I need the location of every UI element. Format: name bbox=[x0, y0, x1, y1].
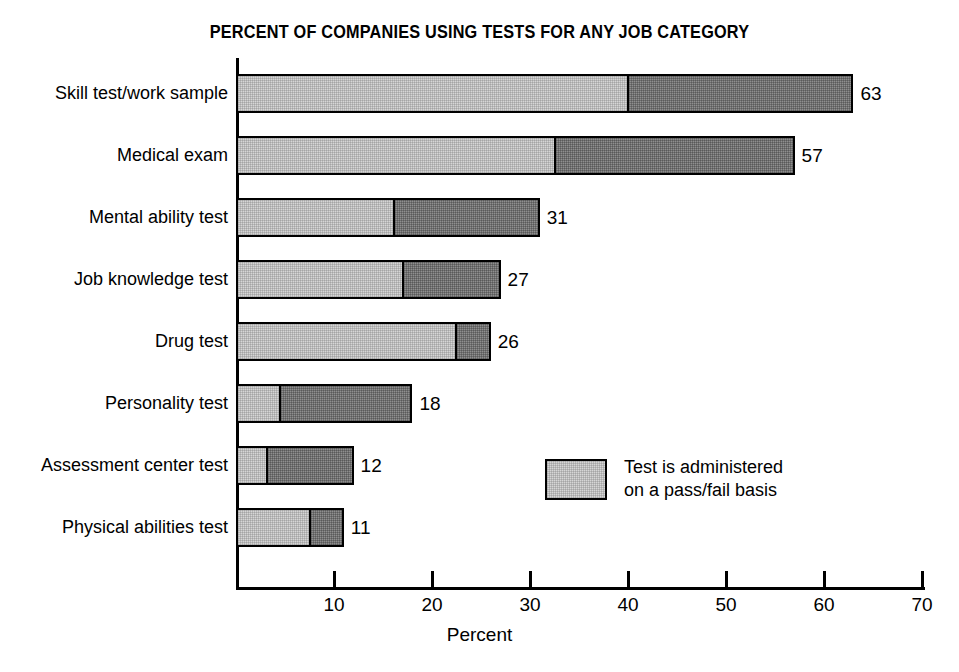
x-tick-mark bbox=[333, 571, 336, 588]
bar-segment-pass-fail bbox=[238, 262, 402, 297]
bar-value-label: 63 bbox=[853, 83, 881, 105]
x-tick-label: 20 bbox=[421, 594, 442, 616]
bar-segment-pass-fail bbox=[238, 76, 627, 111]
chart-title: PERCENT OF COMPANIES USING TESTS FOR ANY… bbox=[34, 22, 926, 43]
x-tick-mark bbox=[431, 571, 434, 588]
category-label-8: Physical abilities test bbox=[8, 517, 236, 538]
bar-value-label: 18 bbox=[412, 393, 440, 415]
category-label-3: Mental ability test bbox=[8, 207, 236, 228]
plot-area: 6357312726181211 bbox=[236, 58, 922, 588]
x-tick-mark bbox=[921, 571, 924, 588]
x-tick-mark bbox=[529, 571, 532, 588]
bar-segment-other bbox=[627, 76, 851, 111]
bar-segment-pass-fail bbox=[238, 386, 279, 421]
bar-value-label: 57 bbox=[795, 145, 823, 167]
legend-label-pass-fail: Test is administered on a pass/fail basi… bbox=[624, 456, 783, 502]
bar-segment-other bbox=[309, 510, 342, 545]
bar-8 bbox=[236, 508, 344, 547]
bar-segment-other bbox=[393, 200, 538, 235]
x-tick-label: 30 bbox=[519, 594, 540, 616]
bar-value-label: 12 bbox=[354, 455, 382, 477]
category-label-4: Job knowledge test bbox=[8, 269, 236, 290]
category-label-column: Skill test/work sampleMedical examMental… bbox=[0, 58, 236, 588]
chart-container: PERCENT OF COMPANIES USING TESTS FOR ANY… bbox=[0, 0, 959, 672]
bar-segment-pass-fail bbox=[238, 510, 309, 545]
bar-2 bbox=[236, 136, 795, 175]
x-axis-title: Percent bbox=[0, 624, 959, 646]
chart-legend: Test is administered on a pass/fail basi… bbox=[545, 456, 783, 502]
bar-segment-pass-fail bbox=[238, 200, 393, 235]
bar-segment-other bbox=[266, 448, 351, 483]
category-label-2: Medical exam bbox=[8, 145, 236, 166]
category-label-5: Drug test bbox=[8, 331, 236, 352]
bar-4 bbox=[236, 260, 501, 299]
bar-segment-pass-fail bbox=[238, 324, 455, 359]
bar-5 bbox=[236, 322, 491, 361]
bar-segment-pass-fail bbox=[238, 448, 266, 483]
x-tick-label: 70 bbox=[911, 594, 932, 616]
bar-value-label: 26 bbox=[491, 331, 519, 353]
bar-1 bbox=[236, 74, 853, 113]
bar-value-label: 27 bbox=[501, 269, 529, 291]
x-tick-mark bbox=[627, 571, 630, 588]
x-tick-label: 10 bbox=[323, 594, 344, 616]
x-tick-label: 50 bbox=[715, 594, 736, 616]
category-label-6: Personality test bbox=[8, 393, 236, 414]
bar-segment-pass-fail bbox=[238, 138, 554, 173]
bar-7 bbox=[236, 446, 354, 485]
x-tick-label: 60 bbox=[813, 594, 834, 616]
bar-segment-other bbox=[455, 324, 489, 359]
category-label-7: Assessment center test bbox=[8, 455, 236, 476]
bar-6 bbox=[236, 384, 412, 423]
bar-segment-other bbox=[279, 386, 410, 421]
bar-value-label: 11 bbox=[344, 517, 371, 539]
x-tick-mark bbox=[823, 571, 826, 588]
category-label-1: Skill test/work sample bbox=[8, 83, 236, 104]
x-tick-mark bbox=[725, 571, 728, 588]
bar-segment-other bbox=[554, 138, 792, 173]
bar-segment-other bbox=[402, 262, 499, 297]
x-tick-label: 40 bbox=[617, 594, 638, 616]
bar-3 bbox=[236, 198, 540, 237]
legend-swatch-pass-fail bbox=[545, 459, 607, 500]
bar-value-label: 31 bbox=[540, 207, 568, 229]
